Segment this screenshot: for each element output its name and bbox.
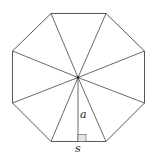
- right-angle-marker: [78, 135, 86, 142]
- side-label: s: [75, 142, 81, 155]
- center-point: [77, 76, 80, 79]
- octagon-diagram: a s: [0, 0, 156, 157]
- apothem-label: a: [80, 108, 87, 121]
